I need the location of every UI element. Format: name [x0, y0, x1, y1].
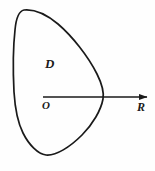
geometry-figure: D O R: [0, 0, 155, 171]
region-boundary-curve: [13, 10, 103, 155]
region-label-d: D: [45, 57, 54, 70]
figure-canvas: [0, 0, 155, 171]
origin-label-o: O: [42, 100, 50, 111]
radius-label-r: R: [137, 101, 145, 113]
